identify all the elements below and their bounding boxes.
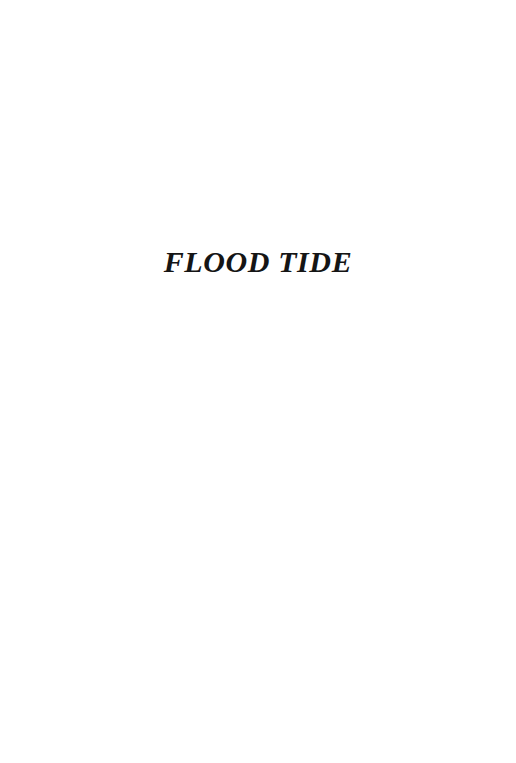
page-title: FLOOD TIDE	[164, 243, 353, 281]
page-top-margin	[0, 0, 516, 243]
half-title-block: FLOOD TIDE	[0, 243, 516, 281]
page-bottom-blank-area	[0, 281, 516, 763]
book-page: FLOOD TIDE	[0, 0, 516, 763]
